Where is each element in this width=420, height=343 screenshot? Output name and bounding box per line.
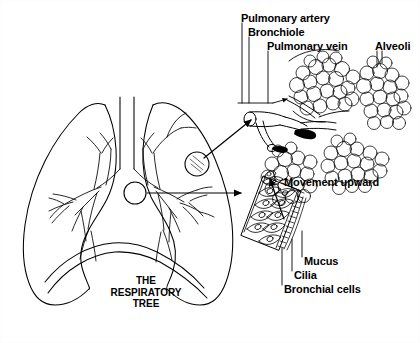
figure-caption: THE RESPIRATORY TREE [100,275,192,310]
label-cilia: Cilia [294,269,317,281]
caption-line-1: THE [100,275,192,287]
alveoli-inset-shading [272,129,316,153]
arrow-to-alveoli-inset [204,120,251,158]
label-bronchial-cells: Bronchial cells [284,283,361,295]
label-pulmonary-vein: Pulmonary vein [267,40,348,52]
caption-line-3: TREE [100,298,192,310]
alveolar-cluster-upper [290,51,361,115]
mucus-layer [284,197,306,250]
alveolar-cluster-right [357,56,412,130]
respiratory-tree-figure: Pulmonary artery Bronchiole Pulmonary ve… [0,0,420,343]
label-mucus: Mucus [304,255,338,267]
callout-circle-epithelium [124,182,146,204]
label-alveoli: Alveoli [375,40,410,52]
label-movement-upward: Movement upward [284,176,379,188]
bronchial-tree [49,113,214,262]
caption-line-2: RESPIRATORY [100,287,192,299]
label-bronchiole: Bronchiole [248,26,304,38]
callout-circle-alveoli [185,152,209,176]
label-pulmonary-artery: Pulmonary artery [241,12,330,24]
